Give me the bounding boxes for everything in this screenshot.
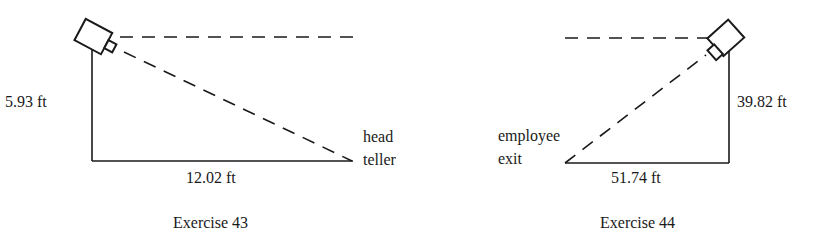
security-camera-icon xyxy=(74,19,120,59)
exercise-43-triangle xyxy=(92,37,357,161)
figure-caption: Exercise 43 xyxy=(173,214,248,232)
exercise-44-triangle xyxy=(565,38,729,163)
vertical-length-label: 39.82 ft xyxy=(737,93,787,111)
angle-of-depression-sightline xyxy=(565,55,706,163)
target-label-line1: employee xyxy=(498,127,560,145)
diagram-canvas xyxy=(0,0,826,243)
target-label-line1: head xyxy=(363,128,393,146)
security-camera-icon xyxy=(701,20,744,62)
vertical-length-label: 5.93 ft xyxy=(5,93,47,111)
horizontal-length-label: 12.02 ft xyxy=(186,169,236,187)
horizontal-length-label: 51.74 ft xyxy=(611,169,661,187)
angle-of-depression-sightline xyxy=(124,52,352,161)
target-label-line2: exit xyxy=(498,150,522,168)
figure-caption: Exercise 44 xyxy=(600,214,675,232)
target-label-line2: teller xyxy=(363,151,396,169)
